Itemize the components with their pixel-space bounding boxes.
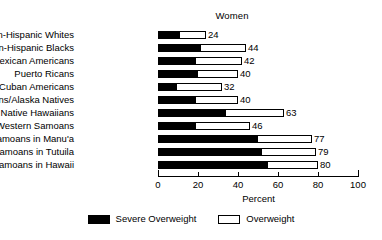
bar-value-label: 46 — [252, 122, 263, 130]
bar-row — [158, 31, 206, 39]
category-label: Non-Hispanic Blacks — [0, 43, 74, 52]
category-label: Samoans in Manu'a — [0, 134, 74, 143]
bar-segment-overweight — [196, 122, 250, 130]
bar-segment-severe-overweight — [158, 57, 196, 65]
x-axis-tick — [198, 172, 199, 177]
bar-segment-overweight — [258, 135, 312, 143]
bar-value-label: 42 — [244, 57, 255, 65]
bar-value-label: 24 — [208, 31, 219, 39]
bar-row — [158, 44, 246, 52]
stacked-bar-chart: Women Non-Hispanic Whites24Non-Hispanic … — [0, 0, 382, 240]
x-axis-tick-label: 100 — [343, 180, 373, 190]
x-axis-tick-label: 20 — [183, 180, 213, 190]
bar-row — [158, 109, 284, 117]
bar-segment-severe-overweight — [158, 44, 201, 52]
bar-segment-severe-overweight — [158, 70, 198, 78]
x-axis-tick — [358, 172, 359, 177]
bar-segment-overweight — [196, 57, 242, 65]
bar-segment-overweight — [262, 148, 316, 156]
bar-value-label: 77 — [314, 135, 325, 143]
bar-segment-severe-overweight — [158, 122, 196, 130]
category-label: American Indians/Alaska Natives — [0, 95, 74, 104]
legend-label-severe-overweight: Severe Overweight — [116, 214, 197, 224]
x-axis-title: Percent — [158, 194, 359, 204]
legend-item-severe-overweight: Severe Overweight — [88, 214, 197, 224]
bar-value-label: 32 — [224, 83, 235, 91]
x-axis-tick — [238, 172, 239, 177]
bar-segment-overweight — [198, 70, 238, 78]
bar-value-label: 80 — [320, 161, 331, 169]
bar-value-label: 79 — [318, 148, 329, 156]
bar-segment-overweight — [180, 31, 206, 39]
x-axis-tick — [318, 172, 319, 177]
filled-black-swatch-icon — [88, 215, 110, 224]
bar-segment-severe-overweight — [158, 109, 226, 117]
category-label: Western Samoans — [0, 121, 74, 130]
plot-area: Non-Hispanic Whites24Non-Hispanic Blacks… — [0, 0, 382, 240]
bar-value-label: 40 — [240, 70, 251, 78]
bar-row — [158, 135, 312, 143]
bar-segment-overweight — [226, 109, 284, 117]
bar-segment-severe-overweight — [158, 96, 196, 104]
x-axis-tick-label: 40 — [223, 180, 253, 190]
bar-row — [158, 161, 318, 169]
category-label: Puerto Ricans — [0, 69, 74, 78]
x-axis-tick — [158, 172, 159, 177]
category-label: Samoans in Hawaii — [0, 160, 74, 169]
bar-segment-overweight — [177, 83, 222, 91]
bar-row — [158, 70, 238, 78]
category-label: Native Hawaiians — [0, 108, 74, 117]
bar-segment-severe-overweight — [158, 148, 262, 156]
bar-row — [158, 83, 222, 91]
bar-value-label: 40 — [240, 96, 251, 104]
bar-row — [158, 122, 250, 130]
bar-row — [158, 57, 242, 65]
category-label: Mexican Americans — [0, 56, 74, 65]
bar-row — [158, 148, 316, 156]
bar-value-label: 44 — [248, 44, 259, 52]
bar-value-label: 63 — [286, 109, 297, 117]
category-label: Samoans in Tutuila — [0, 147, 74, 156]
x-axis-tick-label: 0 — [143, 180, 173, 190]
bar-segment-severe-overweight — [158, 135, 258, 143]
bar-segment-severe-overweight — [158, 31, 180, 39]
bar-segment-overweight — [268, 161, 318, 169]
category-label: Cuban Americans — [0, 82, 74, 91]
category-label: Non-Hispanic Whites — [0, 30, 74, 39]
x-axis-tick — [278, 172, 279, 177]
chart-legend: Severe Overweight Overweight — [0, 214, 382, 224]
bar-segment-severe-overweight — [158, 83, 177, 91]
bar-segment-severe-overweight — [158, 161, 268, 169]
x-axis-tick-label: 80 — [303, 180, 333, 190]
bar-segment-overweight — [196, 96, 238, 104]
legend-item-overweight: Overweight — [218, 214, 294, 224]
x-axis-tick-label: 60 — [263, 180, 293, 190]
outline-white-swatch-icon — [218, 215, 240, 224]
legend-label-overweight: Overweight — [246, 214, 294, 224]
bar-segment-overweight — [201, 44, 246, 52]
x-axis-line — [158, 176, 359, 177]
bar-row — [158, 96, 238, 104]
